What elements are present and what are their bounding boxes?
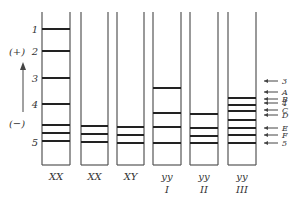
marker-arrow-head-icon: [264, 90, 268, 94]
marker-arrow-head-icon: [264, 113, 268, 117]
marker-arrow-head-icon: [264, 101, 268, 105]
scale-number: 2: [31, 46, 38, 57]
lane-label: XX: [48, 171, 64, 182]
marker-arrow-head-icon: [264, 108, 268, 112]
arrow-head-icon: [20, 62, 26, 70]
marker-label: 5: [282, 139, 287, 148]
minus-pole-label: (−): [9, 118, 25, 129]
marker-arrow-head-icon: [264, 97, 268, 101]
lane-label: yy: [160, 171, 173, 182]
marker-arrow-head-icon: [264, 141, 268, 145]
marker-arrow-head-icon: [264, 126, 268, 130]
lane-label: XX: [86, 171, 102, 182]
lane-label: yy: [235, 171, 248, 182]
plus-pole-label: (+): [9, 46, 25, 57]
lane-sublabel: II: [199, 184, 209, 195]
lane-sublabel: III: [235, 184, 249, 195]
lane-label: XY: [123, 171, 139, 182]
scale-number: 5: [32, 137, 38, 148]
electrophoresis-diagram: XXXXXYyyIyyIIyyIII12345(+)(−)3AB4CDEF5: [0, 0, 306, 202]
lane-label: yy: [197, 171, 210, 182]
marker-arrow-head-icon: [264, 133, 268, 137]
marker-arrow-head-icon: [264, 79, 268, 83]
lane-sublabel: I: [164, 184, 170, 195]
marker-label: D: [281, 111, 289, 120]
marker-label: 3: [282, 77, 287, 86]
scale-number: 1: [32, 24, 38, 35]
scale-number: 3: [32, 73, 38, 84]
scale-number: 4: [31, 99, 38, 110]
